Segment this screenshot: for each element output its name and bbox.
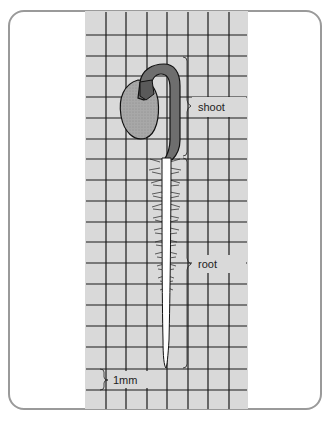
scale-label: 1mm — [113, 374, 137, 386]
root-label: root — [198, 258, 217, 270]
seedling-diagram: shoot root 1mm — [0, 0, 328, 422]
shoot-label: shoot — [198, 101, 225, 113]
